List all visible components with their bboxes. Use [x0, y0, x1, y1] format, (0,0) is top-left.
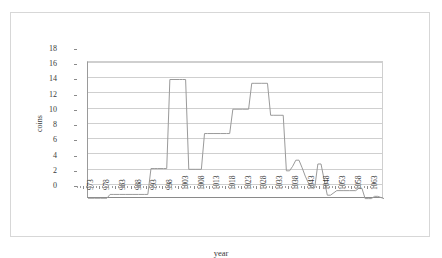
x-minor-tick-1062: [364, 186, 365, 188]
y-tick-label-14: 14: [33, 75, 57, 83]
x-minor-tick-990: [137, 186, 138, 188]
y-tick-label-12: 12: [33, 91, 57, 99]
x-tick-mark-998: [162, 186, 163, 189]
x-minor-tick-1010: [200, 186, 201, 188]
x-minor-tick-992: [143, 186, 144, 188]
x-minor-tick-979: [102, 186, 103, 188]
y-tick-mark-14: [74, 79, 77, 80]
x-minor-tick-1040: [294, 186, 295, 188]
x-tick-mark-1008: [194, 186, 195, 189]
x-minor-tick-1005: [184, 186, 185, 188]
x-minor-tick-1022: [238, 186, 239, 188]
x-minor-tick-1001: [171, 186, 172, 188]
x-minor-tick-1059: [354, 186, 355, 188]
x-minor-tick-1020: [231, 186, 232, 188]
x-tick-mark-1003: [178, 186, 179, 189]
x-minor-tick-1064: [370, 186, 371, 188]
x-minor-tick-972: [80, 186, 81, 188]
x-minor-tick-986: [124, 186, 125, 188]
x-minor-tick-1050: [326, 186, 327, 188]
x-minor-tick-1065: [373, 186, 374, 188]
x-minor-tick-999: [165, 186, 166, 188]
y-tick-label-0: 0: [33, 182, 57, 190]
x-minor-tick-1057: [348, 186, 349, 188]
y-tick-mark-10: [74, 110, 77, 111]
x-tick-label-1053: 1053: [338, 176, 347, 190]
x-tick-label-998: 998: [165, 179, 174, 190]
x-minor-tick-985: [121, 186, 122, 188]
x-tick-label-1058: 1058: [354, 176, 363, 190]
x-minor-tick-1041: [297, 186, 298, 188]
x-tick-mark-1063: [367, 186, 368, 189]
x-tick-mark-1033: [272, 186, 273, 189]
x-tick-mark-1048: [319, 186, 320, 189]
x-tick-mark-978: [99, 186, 100, 189]
x-tick-label-1023: 1023: [244, 176, 253, 190]
x-minor-tick-995: [153, 186, 154, 188]
x-minor-tick-975: [90, 186, 91, 188]
x-tick-label-988: 988: [134, 179, 143, 190]
y-tick-label-2: 2: [33, 167, 57, 175]
x-minor-tick-997: [159, 186, 160, 188]
y-tick-mark-12: [74, 95, 77, 96]
x-minor-tick-1004: [181, 186, 182, 188]
x-minor-tick-1006: [187, 186, 188, 188]
x-minor-tick-976: [93, 186, 94, 188]
x-minor-tick-1034: [275, 186, 276, 188]
x-tick-label-1003: 1003: [181, 176, 190, 190]
x-minor-tick-1039: [291, 186, 292, 188]
y-tick-mark-4: [74, 156, 77, 157]
x-minor-tick-1002: [175, 186, 176, 188]
x-tick-label-1018: 1018: [228, 176, 237, 190]
x-tick-label-1013: 1013: [212, 176, 221, 190]
y-tick-mark-16: [74, 64, 77, 65]
x-minor-tick-1044: [307, 186, 308, 188]
x-minor-tick-1055: [342, 186, 343, 188]
x-minor-tick-1037: [285, 186, 286, 188]
x-tick-label-1048: 1048: [322, 176, 331, 190]
y-tick-mark-8: [74, 125, 77, 126]
x-minor-tick-987: [127, 186, 128, 188]
x-tick-mark-983: [115, 186, 116, 189]
x-minor-tick-989: [134, 186, 135, 188]
x-minor-tick-974: [86, 186, 87, 188]
x-minor-tick-1035: [279, 186, 280, 188]
x-minor-tick-1021: [234, 186, 235, 188]
x-minor-tick-1032: [269, 186, 270, 188]
x-tick-mark-988: [131, 186, 132, 189]
y-tick-mark-6: [74, 140, 77, 141]
x-minor-tick-1000: [168, 186, 169, 188]
x-minor-tick-980: [105, 186, 106, 188]
x-minor-tick-984: [118, 186, 119, 188]
x-tick-label-1038: 1038: [291, 176, 300, 190]
x-minor-tick-1007: [190, 186, 191, 188]
x-tick-mark-1038: [288, 186, 289, 189]
x-tick-label-1033: 1033: [275, 176, 284, 190]
x-minor-tick-1016: [219, 186, 220, 188]
x-minor-tick-1009: [197, 186, 198, 188]
y-tick-label-10: 10: [33, 106, 57, 114]
x-minor-tick-1015: [216, 186, 217, 188]
x-minor-tick-1011: [203, 186, 204, 188]
y-tick-label-6: 6: [33, 136, 57, 144]
x-minor-tick-1051: [329, 186, 330, 188]
x-minor-tick-1024: [244, 186, 245, 188]
x-minor-tick-1029: [260, 186, 261, 188]
x-minor-tick-1054: [338, 186, 339, 188]
x-minor-tick-1046: [313, 186, 314, 188]
x-minor-tick-1025: [247, 186, 248, 188]
x-tick-label-1043: 1043: [307, 176, 316, 190]
x-minor-tick-991: [140, 186, 141, 188]
x-minor-tick-1049: [323, 186, 324, 188]
x-tick-label-978: 978: [102, 179, 111, 190]
x-minor-tick-1030: [263, 186, 264, 188]
x-minor-tick-1026: [250, 186, 251, 188]
x-tick-mark-1058: [351, 186, 352, 189]
x-minor-tick-982: [112, 186, 113, 188]
y-tick-label-8: 8: [33, 121, 57, 129]
x-minor-tick-1014: [212, 186, 213, 188]
x-minor-tick-1031: [266, 186, 267, 188]
x-minor-tick-1056: [345, 186, 346, 188]
y-tick-label-16: 16: [33, 60, 57, 68]
